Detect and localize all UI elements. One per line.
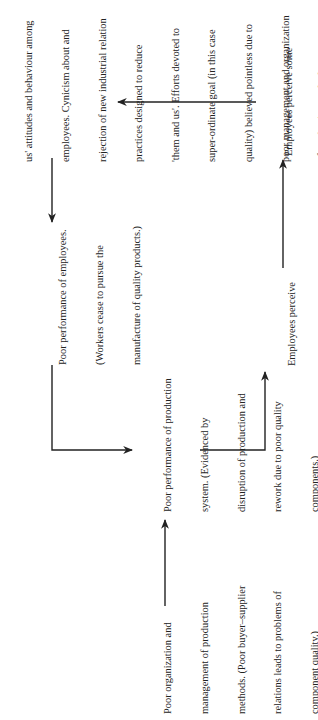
connectors [0, 0, 318, 720]
arrow-system-to-perceive [200, 372, 265, 450]
arrow-employees-to-system [52, 365, 132, 450]
